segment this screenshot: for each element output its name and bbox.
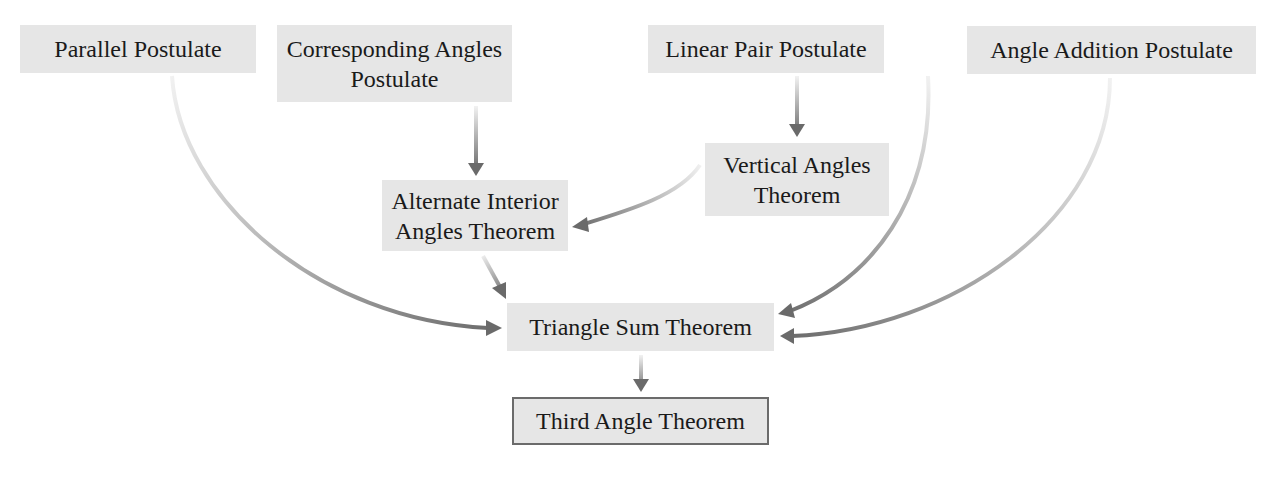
node-label-line1: Vertical Angles [723,150,870,180]
arrow-alternate-to-triangle [483,256,506,299]
node-label-line2: Theorem [754,180,841,210]
node-label: Third Angle Theorem [536,406,745,436]
node-label-line2: Postulate [351,64,439,94]
node-label: Triangle Sum Theorem [529,312,752,342]
theorem-flow-diagram: Parallel Postulate Corresponding Angles … [0,0,1270,477]
arrow-vertical-to-alternate [572,165,700,232]
node-label: Angle Addition Postulate [990,35,1233,65]
node-linear-pair-postulate: Linear Pair Postulate [648,25,884,73]
node-label-line1: Alternate Interior [391,186,558,216]
node-parallel-postulate: Parallel Postulate [20,25,256,73]
node-alternate-interior-angles-theorem: Alternate Interior Angles Theorem [382,180,568,251]
arrow-linear-to-vertical [789,76,805,137]
node-third-angle-theorem: Third Angle Theorem [512,397,769,445]
node-vertical-angles-theorem: Vertical Angles Theorem [705,143,889,216]
arrow-corresponding-to-alternate [468,106,484,176]
node-label-line1: Corresponding Angles [287,34,502,64]
node-corresponding-angles-postulate: Corresponding Angles Postulate [277,25,512,102]
arrow-triangle-to-third [633,355,649,392]
node-angle-addition-postulate: Angle Addition Postulate [967,26,1256,74]
node-label: Parallel Postulate [54,34,221,64]
node-label: Linear Pair Postulate [665,34,866,64]
node-triangle-sum-theorem: Triangle Sum Theorem [507,303,774,351]
node-label-line2: Angles Theorem [395,216,555,246]
